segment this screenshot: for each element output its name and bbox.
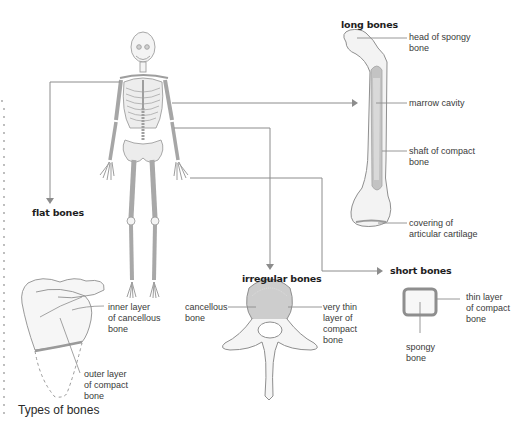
label-head-of-spongy-bone: head of spongy bone [409, 32, 471, 54]
label-inner-layer-of-cancellous-bone: inner layer of cancellous bone [108, 302, 161, 335]
flat-bones-title: flat bones [32, 207, 84, 218]
long-bones-title: long bones [341, 19, 398, 30]
vertebra-illustration [222, 279, 317, 400]
femur-illustration [344, 29, 391, 226]
short-bone-illustration [404, 289, 460, 333]
label-cancellous-bone: cancellous bone [185, 302, 228, 324]
label-thin-layer-of-compact-bone: thin layer of compact bone [466, 292, 510, 325]
label-outer-layer-of-compact-bone: outer layer of compact bone [84, 369, 128, 402]
skeleton-illustration [100, 32, 188, 298]
label-very-thin-layer-of-compact-bone: very thin layer of compact bone [323, 302, 357, 346]
label-marrow-cavity: marrow cavity [409, 98, 465, 109]
label-covering-of-articular-cartilage: covering of articular cartilage [409, 218, 478, 240]
margin-dots [1, 100, 5, 414]
figure-caption: Types of bones [18, 403, 99, 417]
irregular-bones-title: irregular bones [242, 273, 321, 284]
label-shaft-of-compact-bone: shaft of compact bone [409, 146, 475, 168]
label-spongy-bone: spongy bone [406, 342, 435, 364]
short-bones-title: short bones [390, 265, 451, 276]
connector-arrows [50, 82, 377, 271]
arrowheads [46, 99, 383, 275]
